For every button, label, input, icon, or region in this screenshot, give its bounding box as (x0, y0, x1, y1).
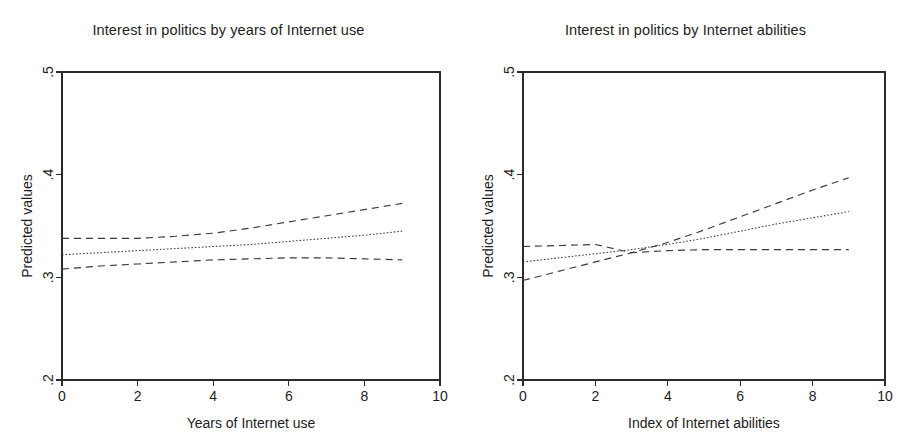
x-tick-label: 6 (736, 388, 744, 404)
x-axis-title: Index of Internet abilities (628, 415, 780, 431)
y-tick-label: .5 (501, 66, 517, 78)
y-tick-label: .3 (501, 271, 517, 283)
chart-panel-internet-abilities: Interest in politics by Internet abiliti… (457, 0, 914, 448)
chart-panel-years-of-internet-use: Interest in politics by years of Interne… (0, 0, 457, 448)
data-series-group (62, 203, 402, 269)
plot-frame (62, 72, 440, 380)
y-axis-title: Predicted values (19, 174, 35, 278)
series-upper-ci (523, 244, 849, 252)
axis-tick-labels: 0246810.2.3.4.5 (40, 66, 448, 404)
x-tick-label: 10 (432, 388, 448, 404)
y-tick-label: .2 (40, 374, 56, 386)
axis-ticks (517, 72, 885, 386)
series-fit (62, 231, 402, 255)
x-tick-label: 8 (809, 388, 817, 404)
series-lower-ci (62, 258, 402, 269)
x-axis-title: Years of Internet use (187, 415, 316, 431)
x-tick-label: 2 (134, 388, 142, 404)
plot-frame (523, 72, 885, 380)
axis-tick-labels: 0246810.2.3.4.5 (501, 66, 893, 404)
figure-canvas: Interest in politics by years of Interne… (0, 0, 914, 448)
x-tick-label: 8 (361, 388, 369, 404)
series-lower-ci (523, 178, 849, 281)
x-tick-label: 10 (877, 388, 893, 404)
x-tick-label: 0 (58, 388, 66, 404)
x-tick-label: 2 (592, 388, 600, 404)
plot-area-right: 0246810.2.3.4.5 Predicted values Index o… (457, 0, 914, 448)
y-tick-label: .4 (40, 169, 56, 181)
x-tick-label: 4 (664, 388, 672, 404)
series-upper-ci (62, 203, 402, 238)
y-tick-label: .4 (501, 169, 517, 181)
y-tick-label: .5 (40, 66, 56, 78)
y-axis-title: Predicted values (480, 174, 496, 278)
x-tick-label: 6 (285, 388, 293, 404)
data-series-group (523, 178, 849, 281)
x-tick-label: 0 (519, 388, 527, 404)
y-tick-label: .3 (40, 271, 56, 283)
plot-area-left: 0246810.2.3.4.5 Predicted values Years o… (0, 0, 457, 448)
x-tick-label: 4 (209, 388, 217, 404)
y-tick-label: .2 (501, 374, 517, 386)
